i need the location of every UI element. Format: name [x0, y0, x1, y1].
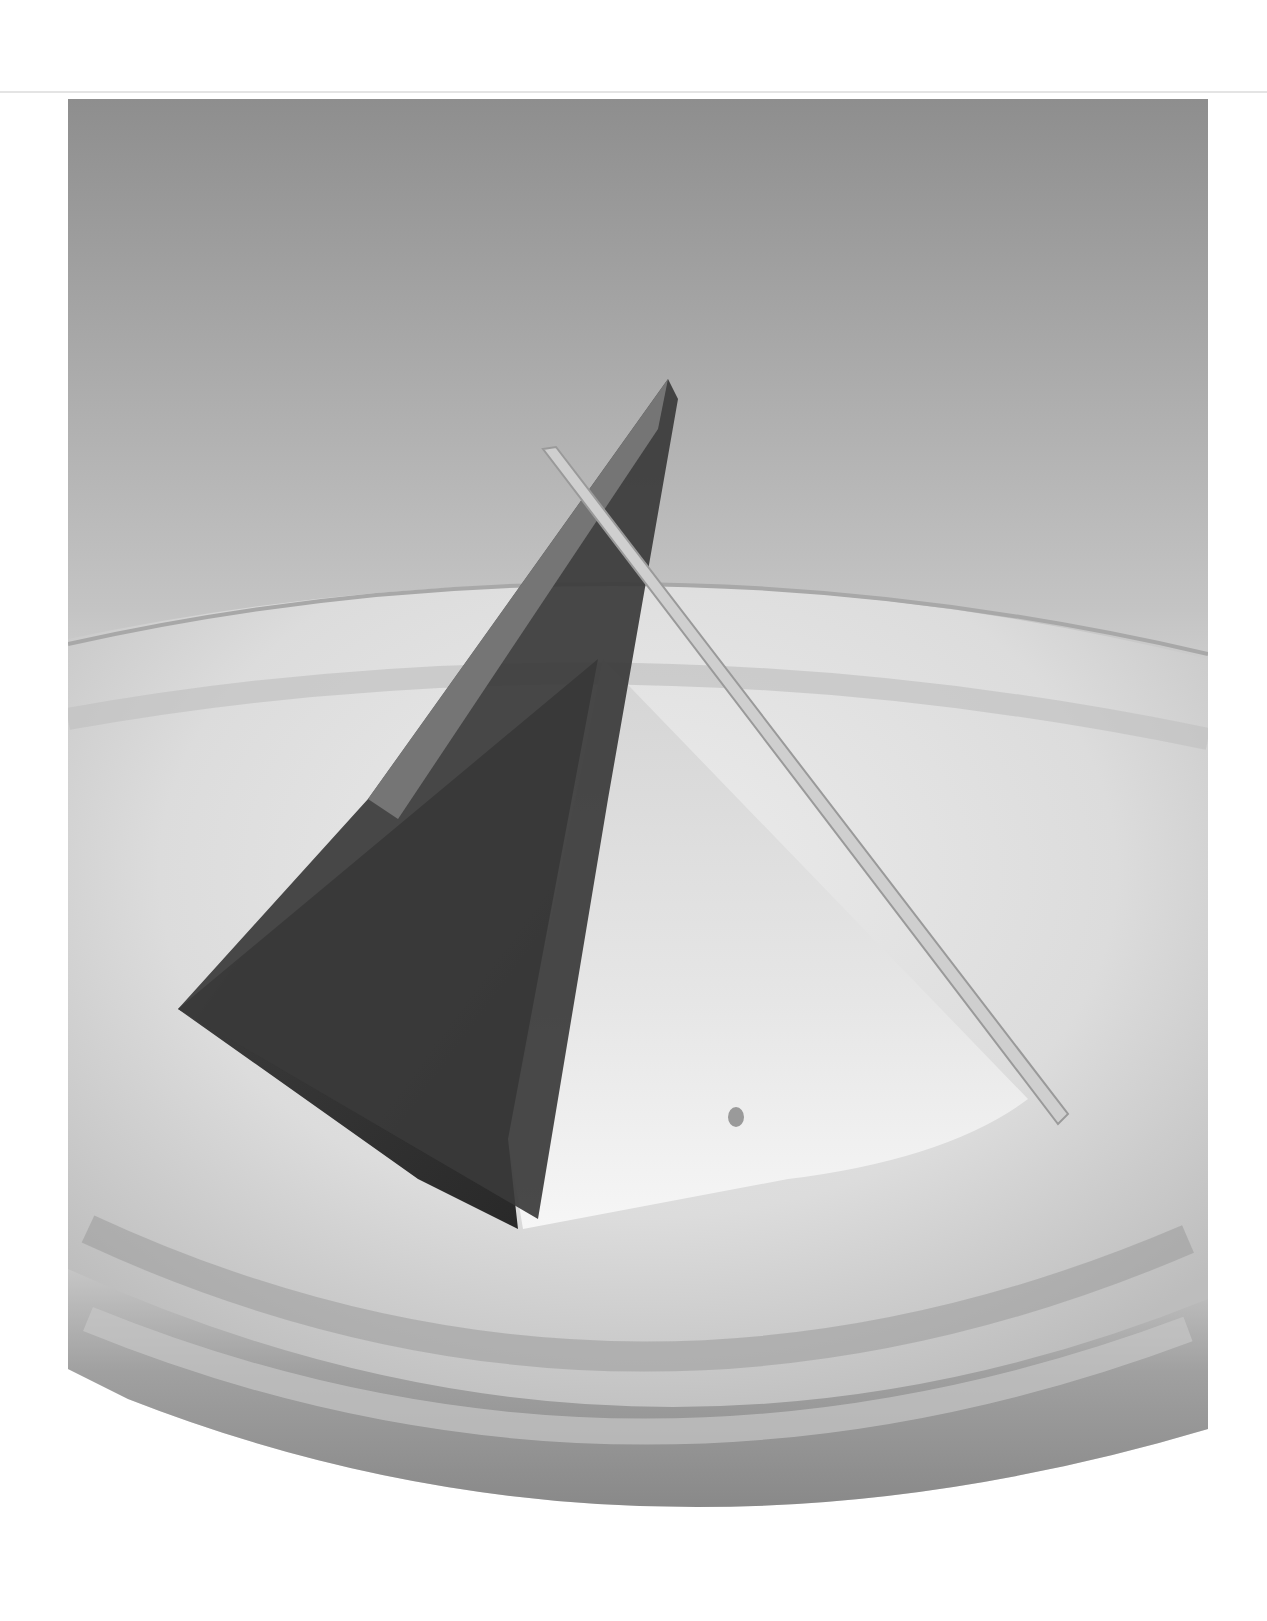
page-top-rule: [0, 91, 1267, 93]
dessert-photo: [68, 99, 1208, 1559]
